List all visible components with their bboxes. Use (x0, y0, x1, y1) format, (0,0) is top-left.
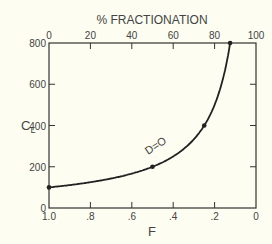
bottom-tick-label: .6 (128, 211, 137, 222)
data-line-d0 (49, 43, 230, 187)
curve-annotation: D=O (143, 134, 169, 157)
bottom-tick-label: .4 (169, 211, 178, 222)
data-point (47, 185, 52, 190)
top-tick-label: 60 (168, 30, 180, 41)
y-tick-label: 200 (29, 162, 46, 173)
y-tick-label: 600 (29, 79, 46, 90)
bottom-tick-label: .8 (86, 211, 95, 222)
top-tick-label: 0 (46, 30, 52, 41)
top-tick-label: 40 (126, 30, 138, 41)
bottom-tick-label: .2 (210, 211, 219, 222)
top-tick-label: 80 (209, 30, 221, 41)
top-tick-label: 20 (85, 30, 97, 41)
top-tick-label: 100 (248, 30, 265, 41)
data-markers (47, 41, 233, 190)
data-point (228, 41, 233, 46)
y-axis-title-sub: L (30, 125, 35, 135)
bottom-axis-title: F (148, 224, 156, 239)
data-point (202, 123, 207, 128)
data-point (150, 164, 155, 169)
top-axis-title: % FRACTIONATION (96, 13, 207, 27)
tick-labels: 1.0.8.6.4.200204060801000200400600800 (29, 30, 264, 222)
bottom-tick-label: 0 (253, 211, 259, 222)
y-axis-title-main: C (21, 118, 30, 133)
y-tick-label: 800 (29, 38, 46, 49)
y-tick-label: 0 (40, 203, 46, 214)
chart: 1.0.8.6.4.200204060801000200400600800 % … (0, 0, 272, 244)
